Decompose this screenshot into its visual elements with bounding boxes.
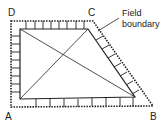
offset-ticks: [11, 21, 139, 107]
field-boundary: [11, 21, 153, 107]
annotation-line-1: Field: [122, 8, 142, 18]
check-diagonals: [20, 29, 135, 99]
label-d: D: [8, 7, 15, 18]
label-b: B: [150, 111, 157, 122]
annotation-line-2: boundary: [122, 19, 160, 29]
label-a: A: [5, 111, 12, 122]
annotation-leader-line: [98, 18, 119, 31]
field-survey-diagram: D C A B Field boundary: [0, 0, 163, 122]
label-c: C: [88, 7, 95, 18]
